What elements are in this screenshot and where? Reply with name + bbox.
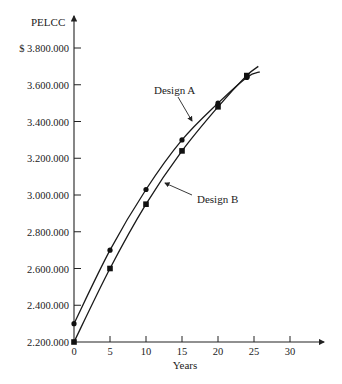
y-tick-label: 2.200.000 [27,337,69,348]
data-point-design-b [244,73,250,79]
x-tick-label: 10 [141,346,152,357]
data-point-design-a [107,248,112,253]
annotations: Design ADesign B [154,84,238,205]
y-tick-label: 3.600.000 [27,80,69,91]
y-tick-label: 2.800.000 [27,227,69,238]
x-axis-title: Years [173,359,198,371]
data-point-design-b [71,339,77,345]
x-tick-label: 30 [285,346,296,357]
data-point-design-a [143,187,148,192]
data-point-design-a [71,321,76,326]
data-point-design-a [179,137,184,142]
y-tick-label: 2.600.000 [27,264,69,275]
data-point-design-b [143,201,149,207]
data-point-design-b [215,104,221,110]
pelcc-chart: PELCCYears 2.200.0002.400.0002.600.0002.… [0,0,342,384]
design-a-label: Design A [154,84,195,96]
y-tick-label: 3.000.000 [27,190,69,201]
y-tick-label: 3.400.000 [27,117,69,128]
x-tick-label: 20 [213,346,224,357]
x-tick-label: 0 [71,346,76,357]
y-tick-label: 3.200.000 [27,153,69,164]
x-tick-label: 15 [177,346,188,357]
data-point-design-b [179,148,185,154]
design-a-arrow [178,97,192,121]
x-tick-label: 5 [107,346,112,357]
data-point-design-b [107,266,113,272]
data-markers [71,73,249,345]
y-axis-title: PELCC [31,16,65,28]
design-b-arrow [165,183,192,195]
design-b-label: Design B [197,193,238,205]
y-tick-label: 2.400.000 [27,300,69,311]
y-tick-label: $ 3.800.000 [19,43,69,54]
x-tick-label: 25 [249,346,260,357]
axes: PELCCYears [31,16,324,371]
